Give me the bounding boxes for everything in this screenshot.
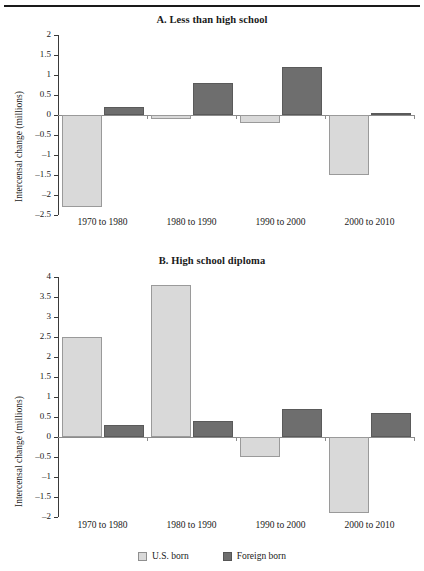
chart-b-bar-us-born xyxy=(240,437,280,457)
legend-item-us-born[interactable]: U.S. born xyxy=(138,551,189,561)
chart-b-y-tick xyxy=(54,297,58,298)
chart-b-y-tick-label: 2 xyxy=(11,351,51,361)
chart-b-title: B. High school diploma xyxy=(0,255,424,266)
chart-b-x-tick xyxy=(236,437,237,441)
chart-b-y-tick xyxy=(54,397,58,398)
chart-a-x-category-label: 1990 to 2000 xyxy=(236,217,325,227)
chart-a-bar-us-born xyxy=(62,115,102,207)
chart-legend: U.S. bornForeign born xyxy=(0,549,424,563)
chart-a-y-tick xyxy=(54,95,58,96)
chart-a-bar-foreign-born xyxy=(193,83,233,115)
chart-b-bar-foreign-born xyxy=(104,425,144,437)
chart-b-y-tick xyxy=(54,357,58,358)
chart-b-y-tick-label: 1.5 xyxy=(11,371,51,381)
chart-a-x-category-label: 2000 to 2010 xyxy=(325,217,414,227)
chart-b-y-tick-label: 0.5 xyxy=(11,411,51,421)
chart-b-y-tick-label: 1 xyxy=(11,391,51,401)
chart-b-plot-area: Intercensal change (millions)43.532.521.… xyxy=(0,271,424,536)
chart-b-y-tick xyxy=(54,517,58,518)
chart-a-y-tick xyxy=(54,55,58,56)
chart-a-y-tick xyxy=(54,75,58,76)
chart-b-y-tick-label: –0.5 xyxy=(11,451,51,461)
chart-a-y-tick-label: 0.5 xyxy=(11,89,51,99)
chart-a-y-tick xyxy=(54,155,58,156)
chart-a-title: A. Less than high school xyxy=(0,14,424,25)
chart-b-y-tick-label: 0 xyxy=(11,431,51,441)
chart-b-x-tick xyxy=(325,437,326,441)
chart-b-y-tick-label: –1.5 xyxy=(11,491,51,501)
chart-b-x-category-label: 1990 to 2000 xyxy=(236,520,325,530)
chart-a-y-axis-label: Intercensal change (millions) xyxy=(14,91,24,202)
chart-a-y-tick-label: 2 xyxy=(11,29,51,39)
chart-b-x-category-label: 2000 to 2010 xyxy=(325,520,414,530)
chart-panel-b: B. High school diploma Intercensal chang… xyxy=(0,255,424,555)
chart-b-x-tick xyxy=(147,437,148,441)
chart-a-y-tick-label: 1.5 xyxy=(11,49,51,59)
light-gray-square-icon xyxy=(138,552,147,561)
legend-label: U.S. born xyxy=(152,551,189,561)
chart-b-bar-foreign-born xyxy=(193,421,233,437)
chart-b-y-tick-label: –1 xyxy=(11,471,51,481)
legend-label: Foreign born xyxy=(237,551,286,561)
chart-b-y-tick xyxy=(54,417,58,418)
chart-a-y-tick xyxy=(54,195,58,196)
chart-b-y-tick xyxy=(54,477,58,478)
chart-a-x-category-label: 1970 to 1980 xyxy=(58,217,147,227)
chart-a-y-tick xyxy=(54,135,58,136)
chart-a-x-tick-end xyxy=(414,115,415,119)
chart-b-x-tick-end xyxy=(414,437,415,441)
chart-a-y-tick-label: –0.5 xyxy=(11,129,51,139)
chart-b-x-category-label: 1970 to 1980 xyxy=(58,520,147,530)
chart-a-y-tick xyxy=(54,35,58,36)
chart-b-bar-us-born xyxy=(62,337,102,437)
chart-a-y-tick-label: –2.5 xyxy=(11,209,51,219)
chart-b-bar-us-born xyxy=(329,437,369,513)
chart-a-bar-foreign-born xyxy=(104,107,144,115)
chart-a-x-tick xyxy=(147,115,148,119)
chart-a-bar-us-born xyxy=(240,115,280,123)
chart-a-y-tick xyxy=(54,175,58,176)
chart-b-y-tick xyxy=(54,457,58,458)
chart-b-y-tick xyxy=(54,497,58,498)
chart-b-y-tick-label: 2.5 xyxy=(11,331,51,341)
chart-b-y-axis xyxy=(58,277,59,517)
chart-panel-a: A. Less than high school Intercensal cha… xyxy=(0,14,424,239)
chart-a-bar-us-born xyxy=(329,115,369,175)
chart-b-y-tick xyxy=(54,277,58,278)
chart-a-y-tick-label: –1 xyxy=(11,149,51,159)
chart-b-bar-foreign-born xyxy=(371,413,411,437)
chart-a-y-tick xyxy=(54,215,58,216)
top-horizontal-rule xyxy=(4,5,420,7)
chart-a-bar-us-born xyxy=(151,115,191,119)
chart-b-bar-foreign-born xyxy=(282,409,322,437)
chart-b-x-category-label: 1980 to 1990 xyxy=(147,520,236,530)
chart-a-y-tick-label: 0 xyxy=(11,109,51,119)
chart-b-y-tick-label: 3 xyxy=(11,311,51,321)
chart-a-x-category-label: 1980 to 1990 xyxy=(147,217,236,227)
legend-item-foreign-born[interactable]: Foreign born xyxy=(223,551,286,561)
chart-a-bar-foreign-born xyxy=(282,67,322,115)
chart-a-y-tick-label: 1 xyxy=(11,69,51,79)
chart-a-x-tick xyxy=(236,115,237,119)
chart-b-y-tick xyxy=(54,317,58,318)
chart-a-y-tick-label: –1.5 xyxy=(11,169,51,179)
chart-b-y-tick-label: 4 xyxy=(11,271,51,281)
chart-b-y-tick-label: 3.5 xyxy=(11,291,51,301)
chart-a-plot-area: Intercensal change (millions)21.510.50–0… xyxy=(0,30,424,235)
chart-b-y-tick xyxy=(54,377,58,378)
chart-a-y-axis xyxy=(58,35,59,215)
chart-b-y-tick-label: –2 xyxy=(11,511,51,521)
chart-b-bar-us-born xyxy=(151,285,191,437)
chart-a-x-tick xyxy=(325,115,326,119)
figure-page: A. Less than high school Intercensal cha… xyxy=(0,0,424,571)
chart-b-y-tick xyxy=(54,337,58,338)
chart-a-bar-foreign-born xyxy=(371,113,411,115)
dark-gray-square-icon xyxy=(223,552,232,561)
chart-a-y-tick-label: –2 xyxy=(11,189,51,199)
